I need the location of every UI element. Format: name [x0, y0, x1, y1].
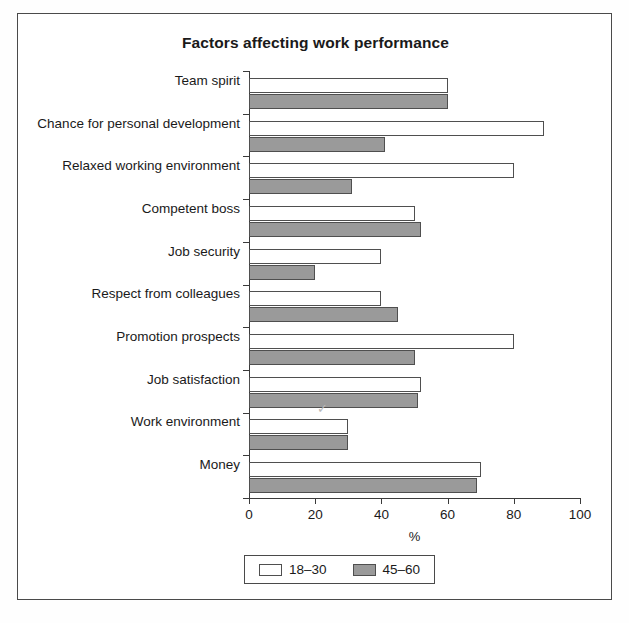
x-tick [381, 498, 382, 504]
bar [249, 462, 481, 477]
legend-label: 18–30 [289, 562, 327, 577]
bar [249, 334, 514, 349]
y-tick [243, 156, 249, 157]
bar [249, 419, 348, 434]
bar [249, 163, 514, 178]
x-tick-label: 0 [229, 507, 269, 522]
chart-frame: Factors affecting work performance 02040… [17, 13, 612, 600]
x-tick-label: 40 [361, 507, 401, 522]
bar [249, 206, 415, 221]
check-mark-annotation: ✓ [317, 401, 328, 416]
y-tick [243, 285, 249, 286]
gray-square-swatch-icon [353, 564, 376, 576]
category-label: Work environment [131, 415, 240, 429]
x-tick [580, 498, 581, 504]
bar [249, 291, 381, 306]
x-tick-label: 20 [295, 507, 335, 522]
chart-title: Factors affecting work performance [18, 34, 613, 52]
y-tick [243, 114, 249, 115]
x-axis-line [249, 498, 580, 499]
x-tick-label: 60 [428, 507, 468, 522]
x-tick-label: 80 [494, 507, 534, 522]
bar [249, 137, 385, 152]
x-tick [315, 498, 316, 504]
x-tick [448, 498, 449, 504]
y-tick [243, 327, 249, 328]
y-tick [243, 455, 249, 456]
legend-entry-18-30[interactable]: 18–30 [259, 562, 327, 577]
bar [249, 222, 421, 237]
category-label: Chance for personal development [37, 117, 240, 131]
category-label: Job security [168, 245, 240, 259]
y-tick [243, 370, 249, 371]
bar [249, 78, 448, 93]
chart-page: Factors affecting work performance 02040… [0, 0, 629, 623]
bar [249, 478, 477, 493]
bar [249, 307, 398, 322]
x-axis-label: % [249, 529, 580, 544]
x-tick-label: 100 [560, 507, 600, 522]
bar [249, 350, 415, 365]
category-label: Job satisfaction [147, 373, 240, 387]
x-tick [249, 498, 250, 504]
y-tick [243, 413, 249, 414]
bar [249, 265, 315, 280]
y-tick [243, 242, 249, 243]
category-label: Promotion prospects [116, 330, 240, 344]
category-label: Money [199, 458, 240, 472]
category-label: Competent boss [142, 202, 240, 216]
bar [249, 435, 348, 450]
bar [249, 249, 381, 264]
bar [249, 179, 352, 194]
bar [249, 121, 544, 136]
bar [249, 94, 448, 109]
y-tick [243, 498, 249, 499]
bar [249, 393, 418, 408]
chart-legend: 18–30 45–60 [244, 555, 435, 584]
category-label: Relaxed working environment [62, 159, 240, 173]
bar [249, 377, 421, 392]
legend-entry-45-60[interactable]: 45–60 [353, 562, 421, 577]
x-tick [514, 498, 515, 504]
y-tick [243, 71, 249, 72]
plot-area: 020406080100 Team spiritChance for perso… [249, 71, 580, 498]
category-label: Respect from colleagues [91, 287, 240, 301]
white-square-swatch-icon [259, 564, 282, 576]
y-tick [243, 199, 249, 200]
category-label: Team spirit [175, 74, 240, 88]
legend-label: 45–60 [383, 562, 421, 577]
